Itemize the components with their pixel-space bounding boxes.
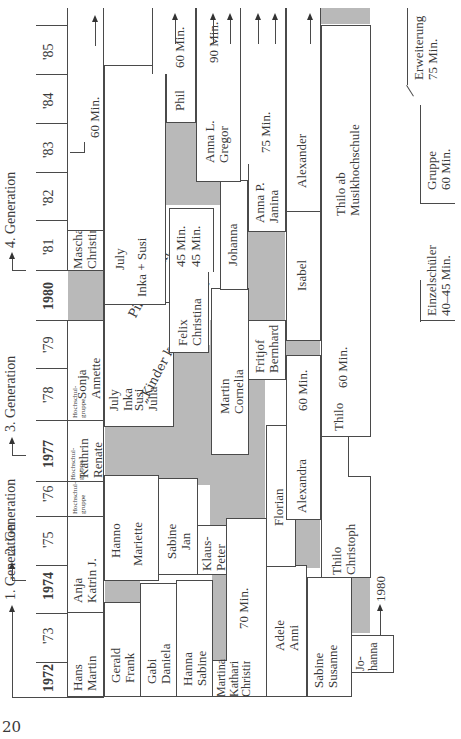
group-label: Klaus- Peter bbox=[200, 536, 227, 571]
shade-isabel bbox=[285, 340, 320, 356]
shade-fritjof bbox=[245, 232, 285, 322]
group-label: Mariette bbox=[131, 522, 145, 566]
page-number: 20 bbox=[2, 718, 21, 736]
generation-3-label: 3. Generation bbox=[4, 356, 19, 432]
group-label: Hans Martin bbox=[71, 656, 98, 691]
group-label: Thilo ab Musikhochschule bbox=[334, 124, 361, 216]
legend-line bbox=[420, 105, 421, 203]
group-label: Gabi Daniela bbox=[145, 644, 172, 684]
group-hochschul-76: Hochschul- gruppe bbox=[67, 481, 104, 517]
group-label: Anna P. Janina bbox=[253, 183, 280, 223]
group-label: Anna L. Gregor bbox=[203, 120, 230, 163]
group-hans-martin: Hans Martin bbox=[67, 612, 104, 697]
continue-arrow-icon bbox=[172, 13, 178, 20]
shade-1980 bbox=[68, 270, 103, 320]
continue-arrow-icon bbox=[210, 13, 216, 20]
group-anna-ext: 90 Min. bbox=[196, 8, 241, 73]
connector bbox=[70, 152, 84, 153]
group-adele-anni: Adele Anni bbox=[266, 565, 307, 697]
legend-line bbox=[420, 280, 421, 322]
arrow-line bbox=[310, 20, 311, 44]
year-1977: 1977 bbox=[42, 440, 57, 468]
continue-arrow-icon bbox=[255, 13, 261, 20]
year-1972: 1972 bbox=[42, 664, 57, 692]
gen2-arrow-icon bbox=[9, 562, 15, 569]
continue-arrow-icon bbox=[272, 13, 278, 20]
group-felix-christina: Felix Christina bbox=[169, 270, 209, 353]
group-70min: 70 Min. bbox=[226, 518, 267, 661]
duration-label: 45 Min. bbox=[189, 226, 203, 267]
group-mascha-christina: Mascha Christina bbox=[67, 230, 104, 271]
generation-4-label: 4. Generation bbox=[4, 172, 19, 248]
group-label: Fritjof Bernhard bbox=[253, 325, 280, 373]
group-label: Inka + Susi bbox=[135, 238, 149, 297]
legend-einzelschueler: Einzelschüler 40–45 Min. bbox=[425, 245, 452, 316]
group-martina-katharina-christina: Martina Katharina Christina bbox=[212, 660, 267, 697]
duration-label: 60 Min. bbox=[88, 97, 102, 138]
group-alexandra-ext: 60 Min. bbox=[286, 355, 321, 422]
group-label: Anja Katrin J. bbox=[71, 558, 98, 603]
group-thilo-christoph: Thilo Christoph bbox=[321, 476, 371, 578]
gen3-connector bbox=[12, 455, 26, 456]
connector bbox=[84, 142, 85, 153]
legend-slope bbox=[406, 85, 414, 97]
group-label: Jo- hanna bbox=[354, 642, 379, 671]
group-label: Martin Cornelia bbox=[218, 369, 245, 414]
group-mascha-ext: 60 Min. bbox=[67, 8, 104, 231]
group-hanno-mariette: Hanno Mariette bbox=[104, 475, 159, 581]
year-82: '82 bbox=[42, 189, 57, 206]
shade-johanna bbox=[352, 575, 370, 633]
group-label: Felix Christina bbox=[176, 298, 203, 346]
group-thilo-bend bbox=[321, 435, 349, 477]
group-anja-katrin: Anja Katrin J. bbox=[67, 516, 104, 613]
group-martin-cornelia: Martin Cornelia bbox=[211, 288, 249, 455]
group-label: Thilo bbox=[332, 403, 346, 431]
shade-klaus bbox=[212, 568, 226, 660]
group-label: Florian bbox=[272, 488, 286, 526]
group-label: Hanno bbox=[109, 523, 123, 558]
group-fritjof-bernhard: Fritjof Bernhard bbox=[248, 320, 286, 380]
group-label: Adele Anni bbox=[273, 620, 300, 651]
continue-arrow-icon bbox=[92, 15, 98, 22]
group-phil: Phil bbox=[166, 73, 196, 123]
group-klaus-peter: Klaus- Peter bbox=[197, 525, 227, 575]
group-label: Alexandra bbox=[295, 459, 309, 513]
duration-label: 45 Min. bbox=[174, 226, 188, 267]
group-isabel: Isabel bbox=[286, 210, 321, 341]
arrow-line bbox=[95, 22, 96, 46]
arrow-line bbox=[380, 610, 381, 636]
arrow-line bbox=[275, 20, 276, 44]
gen4-connector bbox=[12, 270, 26, 271]
arrow-line bbox=[258, 20, 259, 44]
to-1980-label: 1980 bbox=[374, 576, 388, 602]
gen4-arrow-icon bbox=[9, 252, 15, 259]
group-pilotprojekt: July Inka Susi Julia Pilotprojekt „Kinde… bbox=[104, 302, 174, 427]
group-inka-susi: July Inka + Susi bbox=[104, 65, 166, 305]
group-sonja-annette: Hochschul- gruppe Sonja Annette bbox=[67, 320, 104, 421]
gen2-connector bbox=[12, 580, 26, 581]
legend-gruppe: Gruppe 60 Min. bbox=[425, 149, 452, 190]
generation-baseline bbox=[12, 697, 104, 698]
group-hanna-sabine: Hanna Sabine bbox=[176, 580, 213, 697]
continue-arrow-icon bbox=[307, 13, 313, 20]
legend-line bbox=[420, 320, 455, 321]
continue-arrow-icon bbox=[227, 13, 233, 20]
group-johanna-2: Jo- hanna bbox=[351, 635, 394, 673]
group-alexandra: Alexandra bbox=[286, 420, 321, 520]
group-label: Phil bbox=[173, 90, 187, 111]
group-label: Alexander bbox=[295, 134, 309, 188]
group-label: Johanna bbox=[226, 223, 240, 266]
group-gerald-frank: Gerald Frank bbox=[104, 602, 141, 697]
group-label: Isabel bbox=[295, 260, 309, 291]
duration-label: 60 Min. bbox=[296, 370, 310, 411]
group-anna-p-janina: Anna P. Janina bbox=[248, 162, 286, 232]
year-1974: 1974 bbox=[42, 572, 57, 600]
year-79: '79 bbox=[42, 336, 57, 353]
group-kathrin-renate: Hochschul- gruppe Kathrin Renate bbox=[67, 420, 104, 482]
legend-erweiterung: Erweiterung 75 Min. bbox=[412, 16, 439, 80]
group-label: Hanna Sabine bbox=[181, 651, 208, 686]
arrow-line bbox=[213, 20, 214, 44]
gen1-stem bbox=[12, 610, 13, 698]
legend-line bbox=[420, 203, 455, 204]
group-sabine-susanne: Sabine Susanne bbox=[307, 577, 352, 697]
